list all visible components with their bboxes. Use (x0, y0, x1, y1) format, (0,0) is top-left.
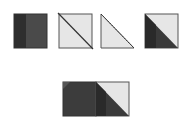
step-5-joined-unit (63, 82, 129, 116)
strip-square-dark-strip (14, 14, 26, 48)
step-2-diagonal-square (58, 13, 93, 49)
step-3-light-triangle (101, 14, 134, 48)
quilt-diagram (0, 0, 192, 138)
joined-dark-square (63, 82, 96, 116)
step-4-half-square-triangle (145, 14, 178, 48)
step-1-strip-square (14, 14, 47, 48)
